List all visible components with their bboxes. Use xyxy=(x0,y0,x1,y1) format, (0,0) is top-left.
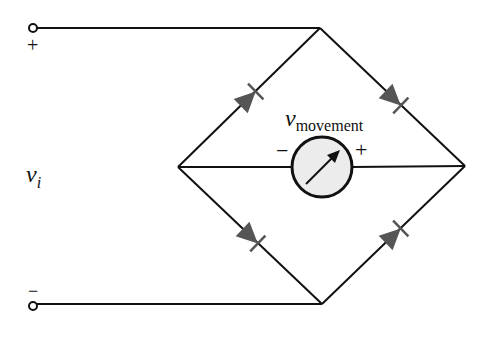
meter-wire-right xyxy=(352,166,465,167)
input-voltage-label: vi xyxy=(26,161,41,191)
positive-terminal xyxy=(29,24,37,32)
negative-terminal xyxy=(29,302,37,310)
meter-minus-label: − xyxy=(276,138,288,163)
meter-voltage-label: vmovement xyxy=(285,105,364,134)
positive-terminal-label: + xyxy=(27,34,38,56)
bridge-rectifier-diagram: + − vi − + vmovement xyxy=(0,0,483,341)
negative-terminal-label: − xyxy=(28,281,38,301)
meter-plus-label: + xyxy=(355,137,367,162)
meter-movement-icon xyxy=(292,137,352,197)
